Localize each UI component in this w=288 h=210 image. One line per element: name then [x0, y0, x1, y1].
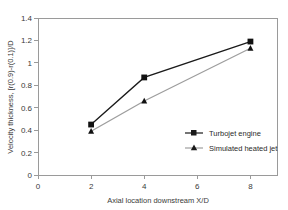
series-line	[91, 42, 250, 125]
x-axis-title: Axial location downstream X/D	[107, 196, 209, 205]
y-tick-label: 0.6	[21, 104, 33, 113]
series-1	[88, 39, 253, 128]
x-tick-label: 4	[142, 182, 147, 191]
chart-canvas: 00.20.40.60.811.21.4 02468 Axial locatio…	[0, 0, 288, 210]
x-axis-ticks: 02468	[36, 175, 253, 191]
y-tick-label: 0.8	[21, 81, 33, 90]
x-tick-label: 6	[195, 182, 200, 191]
legend-item-simulated-heated-jet[interactable]: Simulated heated jet	[185, 144, 278, 153]
y-tick-label: 1.2	[21, 36, 33, 45]
y-tick-label: 1	[28, 59, 33, 68]
data-point-marker	[88, 122, 94, 128]
data-point-marker	[247, 45, 253, 51]
y-tick-label: 0	[28, 171, 33, 180]
legend-label-series-2: Simulated heated jet	[209, 144, 278, 153]
series-line	[91, 48, 250, 131]
data-point-marker	[248, 39, 254, 45]
square-marker-icon	[191, 130, 197, 136]
data-point-marker	[141, 75, 147, 81]
x-tick-label: 0	[36, 182, 41, 191]
y-tick-label: 0.2	[21, 149, 33, 158]
y-tick-label: 1.4	[21, 14, 33, 23]
y-axis-ticks: 00.20.40.60.811.21.4	[21, 14, 38, 180]
chart-figure: 00.20.40.60.811.21.4 02468 Axial locatio…	[0, 0, 288, 210]
legend-label-series-1: Turbojet engine	[209, 129, 261, 138]
y-tick-label: 0.4	[21, 126, 33, 135]
y-axis-title: Velocity thickness, [r(0.9)-r(0.1)]/D	[6, 40, 15, 154]
x-tick-label: 8	[248, 182, 253, 191]
chart-legend: Turbojet engine Simulated heated jet	[185, 129, 278, 153]
series-group	[88, 39, 253, 134]
data-point-marker	[88, 128, 94, 134]
legend-item-turbojet-engine[interactable]: Turbojet engine	[185, 129, 261, 138]
x-tick-label: 2	[89, 182, 94, 191]
series-2	[88, 45, 253, 134]
